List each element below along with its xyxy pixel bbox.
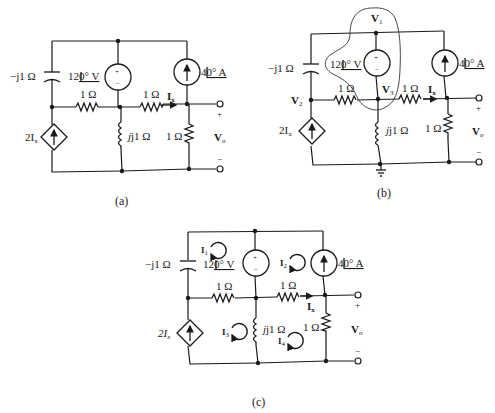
mesh-current-i3: I3	[222, 324, 247, 340]
node	[118, 105, 122, 109]
svg-text:−: −	[254, 266, 258, 274]
node	[186, 296, 190, 300]
resistor-right-label: 1 Ω	[166, 130, 182, 142]
node	[120, 169, 124, 173]
ix-label: Ix	[428, 83, 436, 97]
current-source	[174, 59, 200, 85]
mesh-current-i1: I1	[201, 243, 226, 259]
voltage-source: + −	[364, 50, 390, 76]
circuit-panel-b: −j1 Ω + − 120° V 40° A 1 Ω 1 Ω Ix jj1 Ω …	[268, 8, 485, 200]
svg-text:I3: I3	[222, 327, 230, 339]
output-terminal-plus	[476, 95, 482, 101]
node	[185, 102, 189, 106]
output-terminal-plus	[217, 101, 223, 107]
svg-text:+: +	[115, 68, 119, 76]
ix-label: Ix	[307, 300, 315, 314]
node	[374, 31, 378, 35]
voltage-source-label: 120° V	[68, 70, 99, 82]
inductor	[119, 122, 122, 149]
resistor-mid	[277, 293, 299, 301]
resistor-mid	[399, 95, 421, 103]
dep-source-label: 2Ix	[279, 124, 292, 138]
resistor-right	[444, 114, 452, 140]
inductor-label: jj1 Ω	[261, 323, 286, 335]
svg-text:−: −	[375, 66, 379, 74]
vout-label: Vo	[351, 323, 363, 337]
output-terminal-minus	[217, 166, 223, 172]
resistor-right	[185, 124, 193, 146]
ix-label: Ix	[167, 90, 175, 104]
node-v3-label: V3	[382, 83, 394, 97]
current-source	[432, 50, 458, 76]
output-terminal-plus	[355, 292, 361, 298]
plus-sign: +	[476, 103, 481, 113]
inductor-wire	[121, 107, 122, 171]
capacitor-label: −j1 Ω	[145, 258, 171, 270]
circuit-figure: −j1 Ω + − 120° V 40° A 1 Ω 1 Ω Ix jj1 Ω …	[0, 0, 495, 413]
node	[378, 162, 382, 166]
mesh-current-i2: I2	[280, 255, 305, 271]
capacitor-label: −j1 Ω	[268, 62, 294, 74]
capacitor-label: −j1 Ω	[10, 70, 36, 82]
resistor-left	[76, 103, 98, 111]
current-source-label: 40° A	[338, 257, 364, 269]
resistor-mid	[140, 103, 163, 111]
resistor-right	[322, 313, 330, 337]
node	[309, 98, 313, 102]
svg-text:I2: I2	[280, 258, 288, 270]
inductor-label: jj1 Ω	[384, 124, 409, 136]
circuit-panel-c: −j1 Ω + − 120° V 40° A 1 Ω 1 Ω Ix jj1 Ω …	[145, 229, 364, 409]
node	[324, 359, 328, 363]
svg-text:+: +	[253, 254, 257, 262]
resistor-left-label: 1 Ω	[216, 280, 232, 292]
dependent-source	[177, 320, 203, 346]
node-v1-label: V1	[371, 12, 383, 26]
node	[376, 97, 380, 101]
plus-sign: +	[355, 300, 360, 310]
resistor-mid-label: 1 Ω	[143, 88, 159, 100]
resistor-right-label: 1 Ω	[425, 122, 441, 134]
plus-sign: +	[217, 109, 222, 119]
node	[116, 39, 120, 43]
inductor-label: jj1 Ω	[126, 130, 151, 142]
node	[445, 96, 449, 100]
output-terminal-minus	[476, 159, 482, 165]
vout-label: Vo	[214, 131, 226, 145]
current-source-label: 40° A	[459, 57, 485, 69]
ground-icon	[376, 170, 386, 176]
vout-label: Vo	[472, 125, 484, 139]
panel-caption: (b)	[377, 186, 391, 200]
node	[253, 229, 257, 233]
panel-caption: (c)	[252, 395, 265, 409]
voltage-source: + −	[243, 250, 269, 276]
node	[254, 296, 258, 300]
svg-text:−: −	[116, 80, 120, 88]
current-source	[311, 250, 337, 276]
node	[50, 105, 54, 109]
resistor-left	[334, 96, 356, 104]
resistor-mid-label: 1 Ω	[280, 279, 296, 291]
svg-text:I1: I1	[201, 245, 209, 257]
node	[256, 361, 260, 365]
current-source-label: 40° A	[201, 66, 227, 78]
resistor-right-label: 1 Ω	[303, 321, 319, 333]
panel-caption: (a)	[115, 194, 128, 208]
voltage-source-label: 120° V	[203, 258, 234, 270]
node	[187, 167, 191, 171]
svg-text:I4: I4	[278, 336, 286, 348]
minus-sign: −	[217, 154, 222, 164]
dep-source-label: 2Ix	[158, 327, 171, 341]
voltage-source-label: 120° V	[330, 58, 361, 70]
node	[447, 160, 451, 164]
minus-sign: −	[355, 346, 360, 356]
dep-source-label: 2Ix	[25, 131, 38, 145]
circuit-panel-a: −j1 Ω + − 120° V 40° A 1 Ω 1 Ω Ix jj1 Ω …	[10, 39, 227, 208]
resistor-mid-label: 1 Ω	[402, 82, 418, 94]
minus-sign: −	[476, 147, 481, 157]
svg-text:+: +	[374, 54, 378, 62]
node-v2-label: V2	[291, 94, 303, 108]
dependent-source	[299, 118, 325, 144]
voltage-source: + −	[105, 64, 131, 90]
output-terminal-minus	[355, 358, 361, 364]
inductor	[254, 318, 257, 345]
